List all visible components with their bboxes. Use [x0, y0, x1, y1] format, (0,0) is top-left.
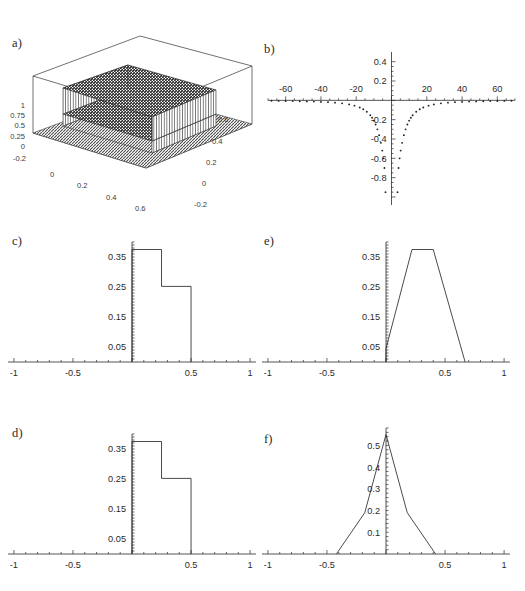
f-y-tick-label: 0.5: [367, 441, 380, 451]
data-point: [359, 107, 361, 109]
data-point: [422, 107, 424, 109]
c-y-tick-label: 0.15: [108, 312, 126, 322]
d-y-tick-label: 0.05: [108, 534, 126, 544]
data-point: [380, 142, 382, 144]
c-x-tick-label: -0.5: [65, 368, 81, 378]
svg-text:0.6: 0.6: [135, 204, 146, 213]
c-y-tick-label: 0.35: [108, 252, 126, 262]
panel-b-x-tick-label: 20: [422, 84, 432, 94]
data-point: [412, 114, 414, 116]
d-y-tick-label: 0.25: [108, 474, 126, 484]
data-point: [433, 103, 435, 105]
c-curve: [132, 250, 191, 363]
data-point: [381, 150, 383, 152]
data-point: [399, 157, 401, 159]
data-point: [482, 100, 484, 102]
panel-e-label: e): [264, 234, 274, 249]
data-point: [341, 102, 343, 104]
d-x-tick-label: 0.5: [185, 560, 198, 570]
data-point: [378, 134, 380, 136]
e-y-tick-label: 0.05: [362, 342, 380, 352]
data-point: [285, 100, 287, 102]
f-x-tick-label: 0.5: [439, 560, 452, 570]
e-x-tick-label: 1: [502, 368, 507, 378]
svg-text:0: 0: [202, 179, 206, 188]
f-x-tick-label: -1: [264, 560, 272, 570]
data-point: [428, 105, 430, 107]
svg-text:0.2: 0.2: [77, 181, 88, 190]
panel-a-surface-plot: a): [0, 18, 262, 214]
panel-b-y-tick-label: 0.4: [374, 57, 387, 67]
svg-text:0.4: 0.4: [106, 193, 117, 202]
svg-text:-0.2: -0.2: [13, 154, 26, 163]
data-point: [327, 101, 329, 103]
f-x-tick-label: -0.5: [319, 560, 335, 570]
data-point: [461, 101, 463, 103]
data-point: [334, 102, 336, 104]
f-x-tick-label: 1: [502, 560, 507, 570]
data-point: [382, 157, 384, 159]
svg-text:-0.2: -0.2: [194, 200, 207, 209]
data-point: [447, 102, 449, 104]
data-point: [511, 100, 513, 102]
data-point: [489, 100, 491, 102]
c-y-tick-label: 0.25: [108, 282, 126, 292]
svg-text:0: 0: [50, 170, 54, 179]
c-x-tick-label: 1: [248, 368, 253, 378]
f-y-tick-label: 0.1: [367, 528, 380, 538]
data-point: [419, 108, 421, 110]
c-y-tick-label: 0.05: [108, 342, 126, 352]
data-point: [354, 105, 356, 107]
data-point: [320, 101, 322, 103]
data-point: [292, 100, 294, 102]
data-point: [454, 101, 456, 103]
data-point: [496, 100, 498, 102]
data-point: [400, 150, 402, 152]
panel-b-x-tick-label: -20: [350, 84, 363, 94]
panel-b-svg: -60-40-202040600.40.2-0.2-0.4-0.6-0.8: [258, 22, 525, 214]
e-x-tick-label: -0.5: [319, 368, 335, 378]
d-x-tick-label: 1: [248, 560, 253, 570]
data-point: [362, 108, 364, 110]
data-point: [369, 114, 371, 116]
data-point: [410, 117, 412, 119]
svg-text:0.4: 0.4: [212, 137, 223, 146]
svg-text:1: 1: [21, 101, 25, 110]
data-point: [398, 167, 400, 169]
data-point: [405, 128, 407, 130]
f-y-tick-label: 0.3: [367, 484, 380, 494]
data-point: [401, 142, 403, 144]
panel-e-svg: -1-0.50.510.350.250.150.05: [258, 222, 525, 392]
panel-a-label: a): [12, 36, 22, 51]
panel-c-label: c): [12, 234, 22, 249]
panel-d-svg: -1-0.50.510.350.250.150.05: [0, 404, 262, 584]
d-curve: [132, 442, 191, 555]
svg-text:0.75: 0.75: [10, 111, 25, 120]
data-point: [468, 101, 470, 103]
data-point: [475, 100, 477, 102]
panel-d-label: d): [12, 426, 23, 441]
data-point: [408, 120, 410, 122]
panel-d-step-plot: d) -1-0.50.510.350.250.150.05: [0, 404, 262, 584]
svg-text:0: 0: [21, 142, 25, 151]
data-point: [366, 111, 368, 113]
e-curve: [386, 250, 465, 363]
e-x-tick-label: -1: [264, 368, 272, 378]
d-y-tick-label: 0.15: [108, 504, 126, 514]
data-point: [373, 120, 375, 122]
data-point: [406, 124, 408, 126]
panel-f-peak-plot: f) -1-0.50.510.50.40.30.20.1: [258, 404, 525, 584]
data-point: [375, 124, 377, 126]
svg-text:0.5: 0.5: [14, 121, 25, 130]
panel-a-svg: 1 0.75 0.5 0.25 0 -0.2 0 0.2 0.4 0.6 0.6…: [0, 18, 262, 214]
d-x-tick-label: -1: [10, 560, 18, 570]
d-y-tick-label: 0.35: [108, 444, 126, 454]
d-x-tick-label: -0.5: [65, 560, 81, 570]
panel-b-y-tick-label: -0.2: [371, 115, 387, 125]
svg-text:0.2: 0.2: [206, 158, 217, 167]
e-y-tick-label: 0.35: [362, 252, 380, 262]
panel-b-label: b): [264, 42, 275, 57]
data-point: [385, 191, 387, 193]
figure-six-panel: a): [0, 0, 525, 591]
panel-b-x-tick-label: -40: [314, 84, 327, 94]
